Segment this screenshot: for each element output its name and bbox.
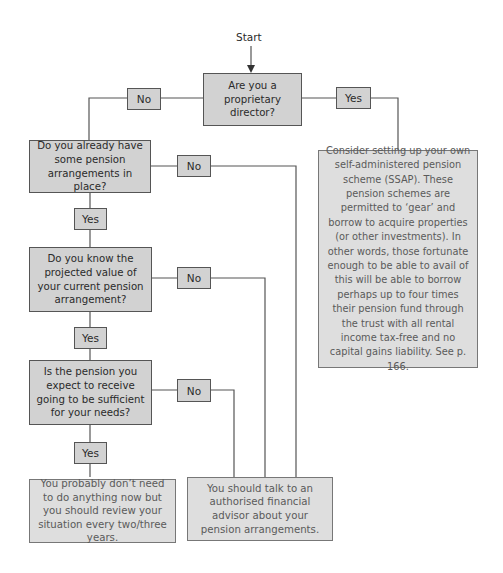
label-q3-yes: Yes xyxy=(74,327,107,349)
question-pension-sufficient: Is the pension you expect to receive goi… xyxy=(29,360,152,425)
question-existing-arrangements: Do you already have some pension arrange… xyxy=(29,140,151,193)
label-q2-yes: Yes xyxy=(74,208,107,230)
label-q3-no: No xyxy=(177,267,211,289)
question-proprietary-director: Are you a proprietary director? xyxy=(203,73,302,126)
outcome-talk-to-advisor: You should talk to an authorised financi… xyxy=(187,477,333,541)
label-q1-yes: Yes xyxy=(336,87,371,109)
arrow-down-icon xyxy=(247,65,255,73)
label-q4-yes: Yes xyxy=(74,442,107,464)
label-q1-no: No xyxy=(127,88,161,110)
outcome-no-action: You probably don’t need to do anything n… xyxy=(29,479,176,543)
start-label: Start xyxy=(236,31,262,43)
question-projected-value: Do you know the projected value of your … xyxy=(29,247,152,312)
outcome-ssap: Consider setting up your own self-admini… xyxy=(318,150,478,368)
label-q2-no: No xyxy=(177,155,211,177)
label-q4-no: No xyxy=(177,379,211,402)
